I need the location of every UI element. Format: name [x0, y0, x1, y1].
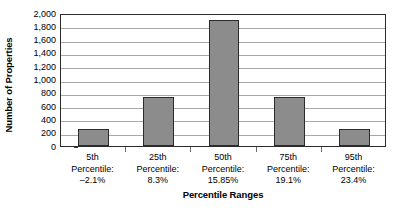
bar — [209, 20, 240, 146]
x-axis-label: 75thPercentile:19.1% — [256, 152, 321, 187]
y-tick-label: 1,800 — [16, 23, 56, 32]
y-tick-label: 600 — [16, 103, 56, 112]
y-tick-label: 200 — [16, 129, 56, 138]
bars-layer — [61, 15, 385, 146]
bar-chart: Number of Properties 02004006008001,0001… — [0, 0, 409, 210]
x-axis-label-line: Percentile: — [125, 164, 190, 176]
bar — [274, 97, 305, 146]
x-axis-label-line: 25th — [125, 152, 190, 164]
plot-area — [60, 14, 386, 147]
x-axis-label-line: 15.85% — [190, 175, 255, 187]
y-tick-label: 400 — [16, 116, 56, 125]
y-tick-label: 1,400 — [16, 49, 56, 58]
bar — [339, 129, 370, 146]
x-tick-mark — [125, 147, 126, 152]
y-tick-label: 800 — [16, 89, 56, 98]
x-axis-label-line: 19.1% — [256, 175, 321, 187]
x-axis-label-line: Percentile: — [321, 164, 386, 176]
y-tick-label: 0 — [16, 143, 56, 152]
y-tick-label: 1,200 — [16, 63, 56, 72]
x-axis-label: 50thPercentile:15.85% — [190, 152, 255, 187]
x-axis-title: Percentile Ranges — [60, 189, 386, 200]
y-tick-mark — [74, 147, 78, 148]
x-tick-mark — [321, 147, 322, 152]
y-axis-ticks: 02004006008001,0001,2001,4001,6001,8002,… — [16, 14, 56, 147]
x-tick-mark — [256, 147, 257, 152]
bar — [143, 97, 174, 146]
bar — [78, 129, 109, 146]
x-axis-labels: 5thPercentile:–2.1%25thPercentile:8.3%50… — [60, 152, 386, 188]
x-axis-label-line: 23.4% — [321, 175, 386, 187]
x-tick-mark — [190, 147, 191, 152]
x-axis-label: 5thPercentile:–2.1% — [60, 152, 125, 187]
x-axis-label-line: 75th — [256, 152, 321, 164]
x-axis-label: 25thPercentile:8.3% — [125, 152, 190, 187]
y-tick-label: 2,000 — [16, 10, 56, 19]
y-tick-label: 1,000 — [16, 76, 56, 85]
x-axis-label-line: –2.1% — [60, 175, 125, 187]
x-axis-label-line: 50th — [190, 152, 255, 164]
x-axis-label-line: 8.3% — [125, 175, 190, 187]
x-axis-label-line: Percentile: — [256, 164, 321, 176]
y-tick-label: 1,600 — [16, 36, 56, 45]
x-axis-label-line: Percentile: — [60, 164, 125, 176]
x-axis-label-line: 5th — [60, 152, 125, 164]
x-axis-label-line: Percentile: — [190, 164, 255, 176]
x-axis-label-line: 95th — [321, 152, 386, 164]
y-axis-title: Number of Properties — [2, 10, 16, 160]
x-axis-label: 95thPercentile:23.4% — [321, 152, 386, 187]
